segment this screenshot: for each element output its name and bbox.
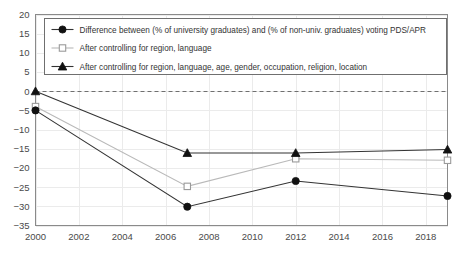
legend-item[interactable]: After controlling for region, language, …: [52, 62, 368, 71]
data-point: [444, 192, 451, 199]
y-axis-tick-label: 0: [24, 86, 29, 97]
y-axis-tick-label: 10: [19, 47, 30, 58]
legend-marker: [59, 45, 65, 51]
data-point: [31, 87, 40, 95]
data-point: [292, 177, 299, 184]
legend-item-label: Difference between (% of university grad…: [80, 26, 427, 35]
series-line: [36, 107, 448, 187]
data-point: [184, 183, 190, 189]
y-axis-tick-label: −5: [19, 105, 30, 116]
series-2: [32, 103, 450, 189]
legend-item-label: After controlling for region, language: [80, 44, 212, 53]
data-point: [184, 203, 191, 210]
series-3: [31, 87, 452, 157]
y-axis-tick-label: −30: [13, 201, 29, 212]
x-axis-tick-label: 2002: [68, 231, 89, 242]
y-axis-tick-label: −25: [13, 182, 29, 193]
x-axis-tick-labels: 2000200220042006200820102012201420162018: [25, 231, 436, 242]
series-line: [36, 110, 448, 206]
legend-item[interactable]: Difference between (% of university grad…: [52, 26, 427, 35]
series-1: [32, 107, 451, 210]
x-axis-tick-label: 2006: [155, 231, 176, 242]
data-point: [444, 157, 450, 163]
x-axis-tick-label: 2004: [112, 231, 133, 242]
x-axis-tick-label: 2018: [415, 231, 436, 242]
x-axis-tick-label: 2012: [285, 231, 306, 242]
chart-container: 20151050−5−10−15−20−25−30−35 20002002200…: [0, 0, 467, 256]
y-axis-tick-label: −15: [13, 143, 29, 154]
x-axis-tick-label: 2016: [372, 231, 393, 242]
data-point: [32, 107, 39, 114]
x-axis-tick-label: 2010: [242, 231, 263, 242]
y-axis-tick-label: 15: [19, 28, 30, 39]
series-layer: [31, 87, 452, 210]
line-chart: 20151050−5−10−15−20−25−30−35 20002002200…: [0, 0, 467, 256]
y-axis-tick-label: −20: [13, 162, 29, 173]
chart-legend: Difference between (% of university grad…: [45, 19, 447, 75]
y-axis-tick-label: 20: [19, 9, 30, 20]
x-axis-tick-label: 2000: [25, 231, 46, 242]
x-axis-tick-label: 2008: [198, 231, 219, 242]
legend-item-label: After controlling for region, language, …: [80, 63, 368, 72]
y-axis-tick-label: −10: [13, 124, 29, 135]
y-axis-tick-label: 5: [24, 66, 29, 77]
y-axis-tick-labels: 20151050−5−10−15−20−25−30−35: [13, 9, 29, 231]
legend-marker: [59, 26, 66, 33]
series-line: [36, 91, 448, 153]
x-axis-tick-label: 2014: [329, 231, 350, 242]
y-axis-tick-label: −35: [13, 220, 29, 231]
